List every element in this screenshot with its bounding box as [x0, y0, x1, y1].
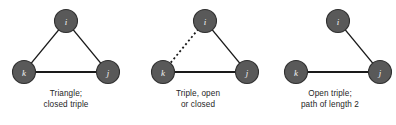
graph-open-triple: ikj	[264, 0, 396, 92]
node-i: i	[55, 10, 78, 33]
node-j: j	[236, 61, 259, 84]
caption-line-1: Open triple;	[264, 88, 396, 99]
edge-i-k	[31, 29, 60, 64]
caption-line-2: or closed	[132, 99, 264, 110]
diagram-panel-triangle: ikj Triangle; closed triple	[0, 0, 132, 125]
caption-line-2: path of length 2	[264, 99, 396, 110]
edge-i-j	[73, 29, 102, 64]
caption-triple-open-or-closed: Triple, open or closed	[132, 88, 264, 110]
node-label-j: j	[245, 68, 249, 78]
edge-i-j	[345, 29, 374, 64]
caption-line-2: closed triple	[0, 99, 132, 110]
node-label-j: j	[106, 68, 110, 78]
node-i: i	[194, 10, 217, 33]
edge-i-j	[212, 29, 241, 64]
edge-i-k	[170, 29, 199, 64]
node-k: k	[285, 61, 308, 84]
node-label-j: j	[378, 68, 382, 78]
diagram-panel-triple-open-or-closed: ikj Triple, open or closed	[132, 0, 264, 125]
node-j: j	[369, 61, 392, 84]
caption-triangle: Triangle; closed triple	[0, 88, 132, 110]
caption-open-triple: Open triple; path of length 2	[264, 88, 396, 110]
triad-census-figure: ikj Triangle; closed triple ikj Triple, …	[0, 0, 396, 125]
graph-triangle: ikj	[0, 0, 132, 92]
caption-line-1: Triple, open	[132, 88, 264, 99]
diagram-panel-open-triple: ikj Open triple; path of length 2	[264, 0, 396, 125]
node-i: i	[327, 10, 350, 33]
node-k: k	[152, 61, 175, 84]
node-k: k	[13, 61, 36, 84]
graph-triple-open-or-closed: ikj	[132, 0, 264, 92]
caption-line-1: Triangle;	[0, 88, 132, 99]
node-j: j	[97, 61, 120, 84]
